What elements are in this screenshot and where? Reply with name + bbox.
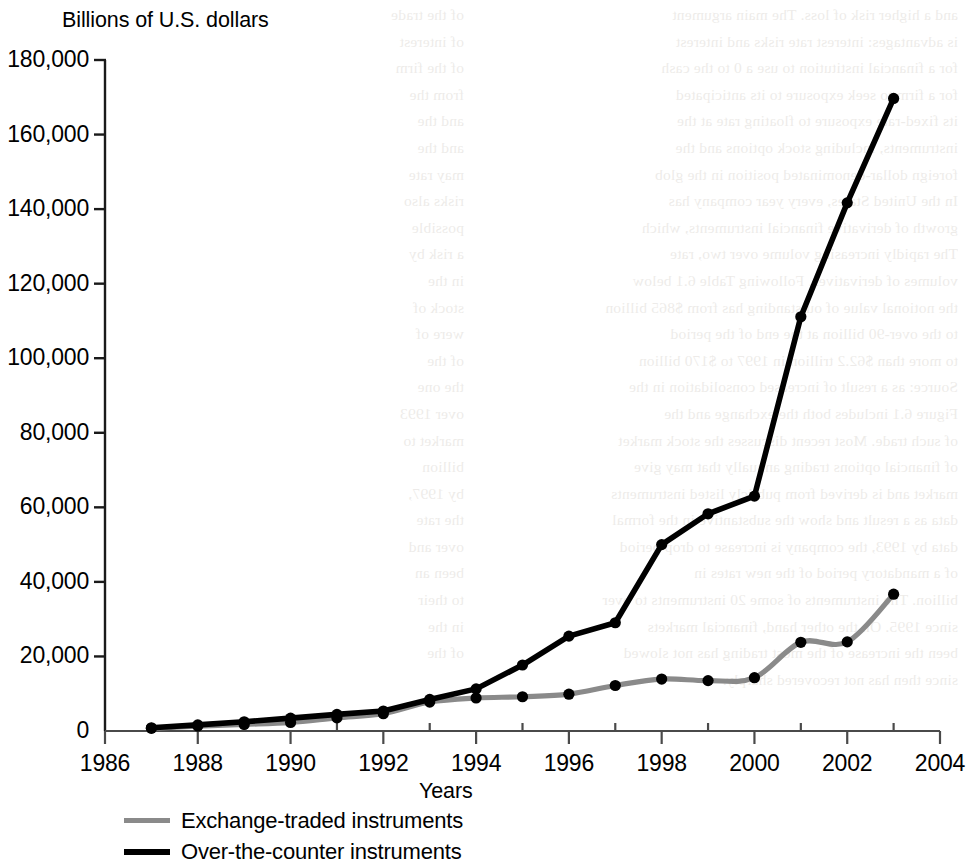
- chart-legend: Exchange-traded instrumentsOver-the-coun…: [124, 805, 463, 867]
- data-point: [424, 694, 435, 705]
- x-axis-tick-label: 2004: [890, 752, 970, 775]
- data-point: [331, 709, 342, 720]
- data-point: [563, 689, 574, 700]
- data-point: [795, 311, 806, 322]
- y-axis-tick-label: 0: [76, 719, 89, 742]
- legend-item: Over-the-counter instruments: [124, 836, 463, 867]
- y-axis-tick-label: 140,000: [7, 197, 89, 220]
- y-axis-tick-label: 40,000: [20, 570, 89, 593]
- legend-swatch-icon: [124, 849, 170, 855]
- data-point: [517, 691, 528, 702]
- x-axis-tick-label: 1992: [333, 752, 433, 775]
- series-markers-over-the-counter: [146, 93, 899, 733]
- data-point: [471, 683, 482, 694]
- x-axis-tick-label: 1994: [426, 752, 526, 775]
- series-over-the-counter: [151, 98, 893, 727]
- data-point: [517, 659, 528, 670]
- y-axis-tick-label: 80,000: [20, 421, 89, 444]
- legend-label: Over-the-counter instruments: [181, 839, 462, 865]
- data-point: [842, 197, 853, 208]
- data-point: [656, 673, 667, 684]
- data-point: [842, 636, 853, 647]
- y-axis-tick-label: 180,000: [7, 48, 89, 71]
- data-point: [146, 722, 157, 733]
- data-point: [702, 675, 713, 686]
- x-axis-tick-label: 1998: [612, 752, 712, 775]
- data-point: [656, 539, 667, 550]
- legend-item: Exchange-traded instruments: [124, 805, 463, 836]
- data-point: [749, 491, 760, 502]
- data-point: [888, 93, 899, 104]
- data-point: [610, 617, 621, 628]
- x-axis-tick-label: 1988: [148, 752, 248, 775]
- x-axis-title: Years: [419, 779, 473, 804]
- data-point: [749, 672, 760, 683]
- x-axis-tick-label: 2000: [704, 752, 804, 775]
- x-axis-tick-label: 2002: [797, 752, 897, 775]
- y-axis-tick-label: 60,000: [20, 495, 89, 518]
- y-axis-tick-label: 120,000: [7, 272, 89, 295]
- legend-swatch-icon: [124, 818, 170, 823]
- data-point: [610, 680, 621, 691]
- x-axis-tick-label: 1996: [519, 752, 619, 775]
- data-point: [888, 589, 899, 600]
- data-point: [285, 713, 296, 724]
- x-axis-tick-label: 1986: [55, 752, 155, 775]
- data-point: [239, 716, 250, 727]
- y-axis-tick-label: 160,000: [7, 123, 89, 146]
- legend-label: Exchange-traded instruments: [181, 808, 463, 834]
- y-axis-tick-label: 100,000: [7, 346, 89, 369]
- data-point: [378, 705, 389, 716]
- x-axis-tick-label: 1990: [241, 752, 341, 775]
- data-point: [795, 637, 806, 648]
- data-point: [192, 719, 203, 730]
- series-line: [151, 98, 893, 727]
- data-series: [146, 93, 899, 734]
- data-point: [563, 631, 574, 642]
- data-point: [702, 508, 713, 519]
- y-axis-tick-label: 20,000: [20, 644, 89, 667]
